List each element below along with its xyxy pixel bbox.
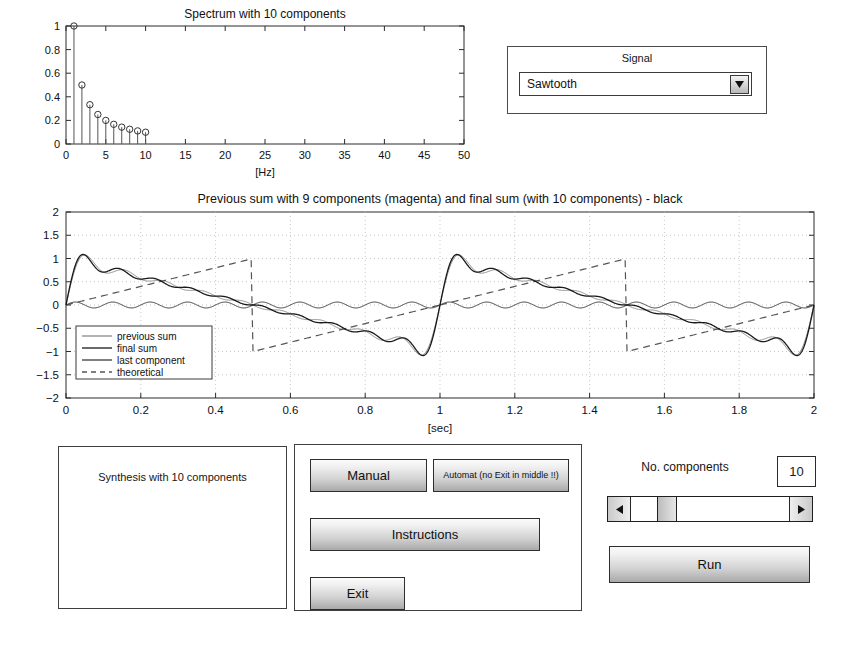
svg-text:0.8: 0.8 [357,404,373,416]
svg-text:Spectrum with 10 components: Spectrum with 10 components [184,7,345,21]
components-value-field[interactable]: 10 [777,456,816,487]
svg-text:0: 0 [63,404,69,416]
button-panel: Manual Automat (no Exit in middle !!) In… [294,444,582,611]
svg-text:1: 1 [437,404,443,416]
svg-text:1.8: 1.8 [731,404,747,416]
instructions-button[interactable]: Instructions [310,518,540,551]
svg-text:45: 45 [418,149,430,161]
signal-dropdown[interactable]: Sawtooth [519,72,752,96]
svg-text:5: 5 [103,149,109,161]
svg-text:2: 2 [53,206,59,218]
svg-text:Previous sum with 9 components: Previous sum with 9 components (magenta)… [198,192,684,206]
svg-text:0.6: 0.6 [282,404,298,416]
svg-text:0.2: 0.2 [45,114,60,126]
status-text: Synthesis with 10 components [59,471,286,483]
svg-text:30: 30 [299,149,311,161]
svg-text:1.5: 1.5 [43,229,59,241]
svg-text:−2: −2 [46,392,59,404]
svg-text:0: 0 [54,138,60,150]
svg-text:40: 40 [378,149,390,161]
slider-track[interactable] [631,497,789,521]
svg-text:0.2: 0.2 [133,404,149,416]
spectrum-chart: Spectrum with 10 components0510152025303… [18,4,478,184]
svg-text:0.4: 0.4 [208,404,225,416]
exit-button[interactable]: Exit [310,577,405,610]
svg-text:[Hz]: [Hz] [255,166,275,178]
svg-text:0.4: 0.4 [45,91,60,103]
svg-text:−0.5: −0.5 [36,322,59,334]
svg-text:1: 1 [53,253,59,265]
svg-text:35: 35 [338,149,350,161]
svg-text:2: 2 [811,404,817,416]
components-control: No. components 10 Run [600,460,816,580]
svg-text:10: 10 [139,149,151,161]
svg-text:1.6: 1.6 [656,404,672,416]
chevron-down-icon[interactable] [730,75,749,94]
svg-text:theoretical: theoretical [117,367,163,378]
svg-text:0.5: 0.5 [43,276,59,288]
signal-panel: Signal Sawtooth [507,46,767,114]
svg-text:50: 50 [458,149,470,161]
svg-text:0.8: 0.8 [45,44,60,56]
components-slider[interactable] [607,496,813,522]
automat-button[interactable]: Automat (no Exit in middle !!) [433,459,569,492]
svg-text:−1: −1 [46,346,59,358]
svg-text:0: 0 [53,299,59,311]
svg-text:25: 25 [259,149,271,161]
svg-text:final sum: final sum [117,343,157,354]
svg-text:0.6: 0.6 [45,67,60,79]
components-label: No. components [600,460,770,474]
status-panel: Synthesis with 10 components [58,446,287,609]
svg-text:15: 15 [179,149,191,161]
svg-text:1: 1 [54,20,60,32]
svg-text:[sec]: [sec] [428,422,452,434]
waveform-chart: Previous sum with 9 components (magenta)… [14,190,826,438]
run-button[interactable]: Run [609,546,810,583]
waveform-svg: Previous sum with 9 components (magenta)… [14,190,826,438]
arrow-left-icon[interactable] [608,497,631,521]
manual-button[interactable]: Manual [310,459,427,492]
svg-text:1.4: 1.4 [582,404,599,416]
svg-text:last component: last component [117,355,185,366]
signal-dropdown-value: Sawtooth [520,77,730,91]
spectrum-svg: Spectrum with 10 components0510152025303… [18,4,478,184]
svg-text:0: 0 [63,149,69,161]
svg-text:previous sum: previous sum [117,331,176,342]
svg-text:−1.5: −1.5 [36,369,59,381]
svg-text:1.2: 1.2 [507,404,523,416]
arrow-right-icon[interactable] [789,497,812,521]
svg-text:20: 20 [219,149,231,161]
signal-label: Signal [508,52,766,64]
slider-thumb[interactable] [657,497,677,521]
